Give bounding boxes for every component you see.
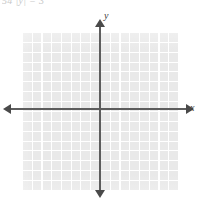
- problem-number-text: 54 |y| = 3: [2, 0, 72, 6]
- graph-figure: 54 |y| = 3 y x: [0, 0, 201, 208]
- x-axis-left-arrow-icon: [3, 104, 11, 114]
- y-axis-line: [99, 26, 101, 193]
- x-axis-label: x: [190, 103, 194, 113]
- y-axis-label: y: [104, 11, 108, 21]
- y-axis-down-arrow-icon: [95, 190, 105, 198]
